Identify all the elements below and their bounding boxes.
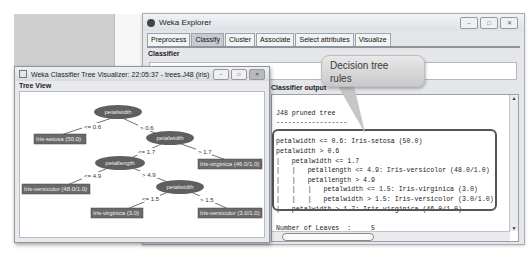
tab-select-attributes[interactable]: Select attributes [295, 33, 353, 46]
output-horizontal-scrollbar[interactable] [272, 231, 510, 241]
output-line: ------------------ [276, 119, 347, 126]
tree-view-label: Tree View [15, 81, 269, 90]
window-icon [19, 70, 27, 78]
close-button[interactable]: ✕ [249, 69, 265, 80]
scroll-down-arrow-icon[interactable]: ▼ [510, 225, 518, 231]
tree-leaf: Iris-virginica (46.0/1.0) [200, 161, 259, 167]
scroll-up-arrow-icon[interactable]: ▲ [510, 95, 518, 101]
edge-label: > 0.6 [140, 125, 154, 131]
edge-label: <= 4.9 [84, 173, 102, 179]
decision-rules-highlight [272, 129, 497, 211]
edge-label: > 1.5 [200, 197, 214, 203]
tree-node: petalwidth [166, 184, 193, 190]
maximize-button[interactable]: □ [480, 17, 498, 29]
explorer-tabs: Preprocess Classify Cluster Associate Se… [147, 33, 524, 46]
classifier-output-label: Classifier output [271, 84, 326, 91]
close-button[interactable]: ✕ [500, 17, 518, 29]
background-window-strip [114, 14, 143, 69]
tree-node: petalwidth [104, 109, 131, 115]
weka-app-icon [147, 19, 155, 27]
tree-visualizer-title: Weka Classifier Tree Visualizer: 22:05:3… [31, 71, 209, 78]
minimize-button[interactable]: – [460, 17, 478, 29]
tree-view-panel[interactable]: <= 0.6 > 0.6 <= 1.7 > 1.7 <= 4.9 > 4.9 <… [19, 91, 265, 238]
edge-label: <= 1.7 [138, 149, 156, 155]
decision-tree-rules-callout: Decision tree rules [321, 55, 425, 87]
edge-label: > 1.7 [198, 149, 212, 155]
callout-line-2: rules [330, 72, 416, 85]
decision-tree-graph: <= 0.6 > 0.6 <= 1.7 > 1.7 <= 4.9 > 4.9 <… [20, 92, 264, 237]
output-vertical-scrollbar[interactable]: ▲ ▼ [509, 95, 518, 231]
tree-node: petallength [105, 160, 134, 166]
explorer-titlebar[interactable]: Weka Explorer – □ ✕ [143, 14, 524, 31]
tree-leaf: Iris-versicolor (48.0/1.0) [24, 186, 87, 192]
tree-node: petalwidth [156, 135, 183, 141]
horizontal-scroll-thumb[interactable] [282, 233, 374, 241]
explorer-title: Weka Explorer [159, 18, 211, 27]
tree-visualizer-titlebar[interactable]: Weka Classifier Tree Visualizer: 22:05:3… [15, 67, 269, 81]
edge-label: <= 0.6 [84, 124, 102, 130]
edge-label: > 4.9 [142, 172, 156, 178]
tree-leaf: Iris-virginica (3.0) [93, 210, 139, 216]
tab-classify[interactable]: Classify [191, 33, 224, 46]
minimize-button[interactable]: – [213, 69, 229, 80]
callout-line-1: Decision tree [330, 59, 416, 72]
output-line: J48 pruned tree [276, 110, 335, 117]
tree-leaf: Iris-setosa (50.0) [36, 136, 81, 142]
tab-visualize[interactable]: Visualize [355, 33, 391, 46]
tab-cluster[interactable]: Cluster [225, 33, 255, 46]
tree-leaf: Iris-versicolor (3.0/1.0) [200, 210, 260, 216]
maximize-button[interactable]: □ [231, 69, 247, 80]
tab-preprocess[interactable]: Preprocess [147, 33, 190, 46]
tab-associate[interactable]: Associate [256, 33, 294, 46]
desktop-background [14, 14, 114, 69]
edge-label: <= 1.5 [142, 196, 160, 202]
tree-visualizer-window: Weka Classifier Tree Visualizer: 22:05:3… [14, 66, 270, 243]
